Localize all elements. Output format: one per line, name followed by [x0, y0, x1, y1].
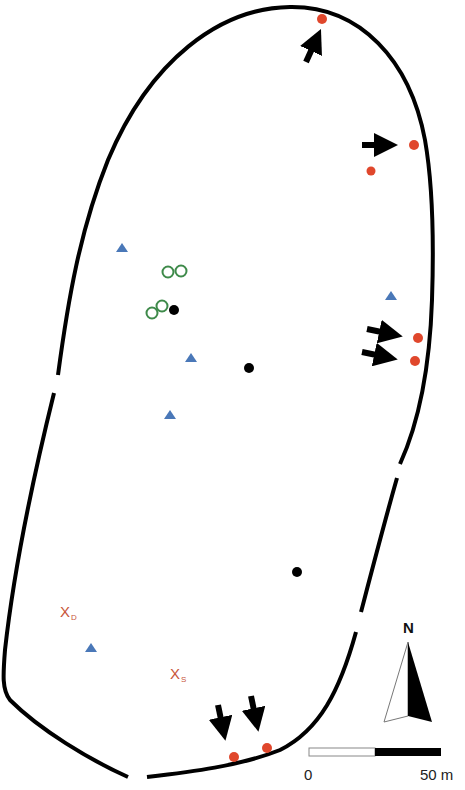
arrow-icon — [367, 329, 391, 334]
red-dot-marker — [410, 356, 420, 366]
outline-segment-east — [361, 478, 397, 612]
open-circle-marker — [147, 308, 158, 319]
x-d-main: X — [60, 603, 70, 620]
arrow-icon — [306, 40, 316, 62]
arrow-icon — [251, 696, 256, 720]
enclosure-outline — [4, 7, 433, 777]
scale-end-label: 50 m — [420, 766, 453, 783]
red-dot-marker — [413, 333, 423, 343]
north-arrow-icon — [384, 642, 432, 722]
red-dot-marker — [229, 752, 239, 762]
green-circles — [147, 266, 187, 319]
arrow-icon — [218, 705, 223, 729]
open-circle-marker — [157, 301, 168, 312]
blue-triangles — [85, 243, 397, 652]
site-map — [0, 0, 465, 790]
triangle-marker — [385, 291, 397, 300]
black-dots — [169, 305, 302, 577]
red-dot-marker — [317, 14, 327, 24]
red-dot-marker — [409, 140, 419, 150]
outline-segment-north — [58, 7, 433, 464]
black-dot-marker — [292, 567, 302, 577]
triangle-marker — [164, 410, 176, 419]
scale-start-label: 0 — [304, 766, 312, 783]
triangle-marker — [85, 643, 97, 652]
open-circle-marker — [176, 266, 187, 277]
open-circle-marker — [163, 267, 174, 278]
x-d-label: XD — [60, 604, 77, 622]
triangle-marker — [185, 353, 197, 362]
red-dot-marker — [262, 743, 272, 753]
x-s-main: X — [170, 665, 180, 682]
outline-segment-west — [4, 393, 128, 777]
red-dots — [229, 14, 423, 762]
black-dot-marker — [169, 305, 179, 315]
north-label: N — [403, 619, 414, 636]
triangle-marker — [116, 243, 128, 252]
scale-bar — [309, 748, 441, 756]
x-s-label: XS — [170, 666, 186, 684]
arrow-icon — [362, 352, 386, 357]
black-dot-marker — [244, 363, 254, 373]
red-dot-marker — [367, 167, 376, 176]
x-s-sub: S — [181, 675, 186, 684]
arrows — [218, 40, 391, 729]
x-d-sub: D — [71, 613, 77, 622]
